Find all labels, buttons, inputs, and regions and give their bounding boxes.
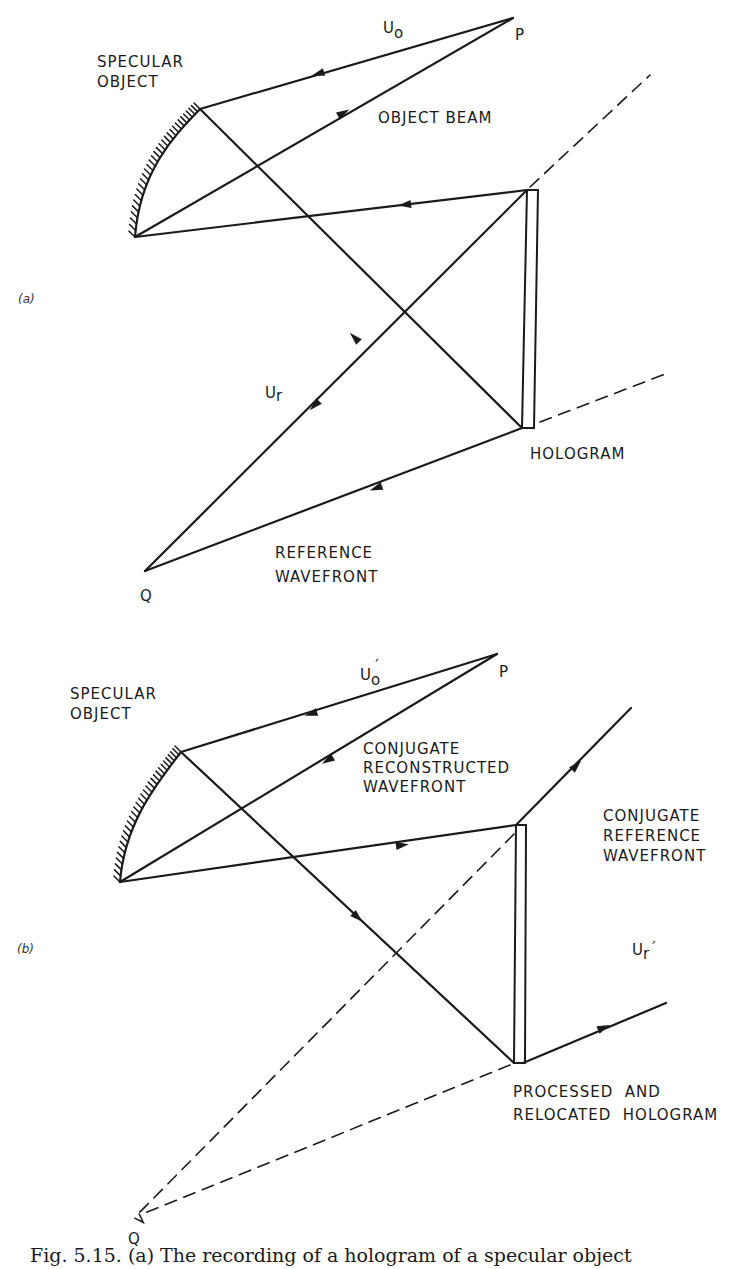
hatch-tick [161, 764, 167, 770]
specular-object-label-line1: SPECULAR [70, 685, 157, 703]
hologram-plate-b [514, 825, 526, 1063]
conjugate-reference-label-line1: CONJUGATE [603, 807, 700, 825]
hatch-tick [157, 148, 163, 154]
object-beam-uo [200, 18, 513, 109]
point-p-label: P [499, 663, 508, 681]
hatch-tick [143, 790, 149, 796]
ray-holo-top-to-obj-bottom [120, 825, 516, 882]
conjugate-reconstructed-label-line2: RECONSTRUCTED [363, 759, 510, 777]
specular-object-label-line1: SPECULAR [97, 53, 184, 71]
hatch-tick [159, 144, 165, 150]
hatch-tick [164, 136, 170, 142]
hatch-tick [178, 120, 184, 126]
hatch-tick [152, 156, 158, 162]
hatch-tick [154, 152, 160, 158]
dashed-extension-top [530, 75, 650, 187]
specular-object-hatching [129, 103, 200, 237]
hatch-tick [117, 852, 123, 858]
hatch-tick [131, 212, 137, 218]
hatch-tick [127, 821, 133, 827]
hatch-tick [149, 160, 155, 166]
hatch-tick [132, 812, 138, 818]
hatch-tick [130, 224, 136, 230]
hatch-tick [146, 786, 152, 792]
dashed-line-to-q-bottom [140, 1065, 510, 1215]
panel-a [129, 18, 668, 571]
hatch-tick [167, 133, 173, 139]
hatch-tick [115, 864, 121, 870]
arrow-icon [135, 1214, 146, 1225]
hatch-tick [170, 129, 176, 135]
reference-wavefront-label-line2: WAVEFRONT [275, 568, 378, 586]
reference-ray-ur [145, 190, 527, 571]
hatch-tick [147, 164, 153, 170]
hatch-tick [134, 807, 140, 813]
arrow-icon [310, 68, 325, 79]
hatch-tick [133, 206, 139, 212]
point-q-label: Q [140, 587, 152, 605]
hatch-tick [166, 758, 172, 764]
uo-label: Uo [383, 19, 403, 42]
processed-hologram-label-line2: RELOCATED HOLOGRAM [513, 1106, 718, 1124]
hatch-tick [129, 231, 135, 237]
hatch-tick [134, 200, 140, 206]
hatch-tick [154, 775, 160, 781]
hatch-tick [130, 218, 136, 224]
arrowheads-a [307, 68, 412, 494]
arrow-icon [347, 330, 362, 345]
panel-a-labels: (a) SPECULAR OBJECT Uo P OBJECT BEAM Ur … [18, 19, 625, 605]
hologram-label: HOLOGRAM [530, 445, 625, 463]
conjugate-reconstructed-label-line1: CONJUGATE [363, 740, 460, 758]
hatch-tick [181, 117, 187, 123]
hatch-tick [124, 831, 130, 837]
hatch-tick [137, 189, 143, 195]
hatch-tick [129, 816, 135, 822]
arrow-icon [307, 398, 322, 413]
hatch-tick [148, 782, 154, 788]
hatch-tick [114, 876, 120, 882]
hatch-tick [159, 768, 165, 774]
hatch-tick [156, 771, 162, 777]
hatch-tick [164, 761, 170, 767]
hatch-tick [168, 755, 174, 761]
conjugate-reconstructed-label-line3: WAVEFRONT [363, 778, 466, 796]
point-p-label: P [515, 26, 524, 44]
hatch-tick [115, 870, 121, 876]
hatch-tick [186, 111, 192, 117]
reference-wavefront-label-line1: REFERENCE [275, 544, 373, 562]
figure-caption: Fig. 5.15. (a) The recording of a hologr… [30, 1244, 632, 1266]
hatch-tick [143, 174, 149, 180]
ur-label: Ur [265, 384, 283, 405]
uo-prime-label: Uo′ [360, 657, 380, 689]
hatch-tick [173, 126, 179, 132]
specular-object-label-line2: OBJECT [70, 705, 132, 723]
arrow-icon [569, 758, 584, 773]
dashed-line-to-q-top [138, 834, 514, 1214]
ur-prime-label: Ur′ [632, 939, 656, 963]
hatch-tick [141, 794, 147, 800]
reflected-ray-top [200, 109, 522, 428]
panel-label-a: (a) [18, 292, 35, 306]
dashed-extension-bottom [540, 373, 668, 422]
hatch-tick [189, 108, 195, 114]
hatch-tick [162, 140, 168, 146]
specular-object-label-line2: OBJECT [97, 73, 159, 91]
object-beam [135, 18, 513, 237]
hatch-tick [120, 841, 126, 847]
hatch-tick [175, 123, 181, 129]
conjugate-reference-label-line3: WAVEFRONT [603, 847, 706, 865]
ray-obj-top-to-holo-bottom [181, 752, 514, 1063]
hologram-plate-a [522, 190, 538, 428]
hatch-tick [145, 169, 151, 175]
hatch-tick [119, 847, 125, 853]
object-beam-label: OBJECT BEAM [378, 109, 492, 127]
hatch-tick [122, 836, 128, 842]
hatch-tick [184, 114, 190, 120]
hatch-tick [116, 858, 122, 864]
hatch-tick [136, 803, 142, 809]
panel-b-labels: (b) SPECULAR OBJECT Uo′ P CONJUGATE RECO… [17, 657, 718, 1248]
processed-hologram-label-line1: PROCESSED AND [513, 1083, 661, 1101]
conjugate-reference-label-line2: REFERENCE [603, 827, 701, 845]
hatch-tick [139, 798, 145, 804]
